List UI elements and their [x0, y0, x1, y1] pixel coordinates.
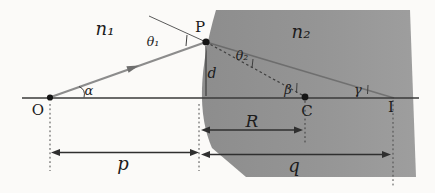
p-arrowhead-left	[51, 149, 60, 156]
object-distance-p-label: p	[117, 155, 129, 173]
gamma-label: γ	[354, 83, 362, 96]
alpha-label: α	[85, 84, 94, 97]
point-O-label: O	[32, 103, 44, 118]
p-arrowhead-right	[190, 149, 199, 156]
theta1-label: θ₁	[147, 36, 160, 49]
medium2-label: n₂	[292, 23, 311, 41]
radius-R-label: R	[246, 113, 259, 130]
theta1-angle-tick	[186, 35, 187, 46]
image-distance-q-label: q	[288, 157, 300, 175]
gamma-angle-tick	[368, 85, 369, 94]
beta-angle-tick	[297, 83, 298, 93]
point-I-label: I	[388, 100, 394, 115]
q-arrowhead-left	[201, 151, 210, 158]
theta2-label: θ₂	[236, 50, 249, 63]
point-P-dot	[202, 38, 209, 45]
point-O-dot	[47, 94, 53, 100]
point-P-label: P	[195, 20, 205, 35]
refraction-spherical-surface-diagram: n₁ n₂ P O C I θ₁ θ₂ α β γ d R p q	[0, 0, 435, 193]
medium1-label: n₁	[96, 20, 115, 38]
point-C-dot	[302, 94, 309, 101]
optics-diagram-canvas	[0, 0, 435, 193]
distance-d-label: d	[208, 66, 217, 80]
beta-label: β	[284, 83, 292, 96]
point-C-label: C	[301, 104, 312, 119]
incident-ray-arrowhead	[126, 66, 139, 73]
